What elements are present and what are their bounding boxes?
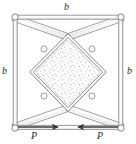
corner-joint-bottom-left xyxy=(12,125,18,131)
dimension-label-left: b xyxy=(2,66,7,76)
core-rhombus xyxy=(30,34,107,112)
force-label-right: P xyxy=(97,131,103,141)
figure-root: b b b P P xyxy=(0,0,136,144)
corner-joint-bottom-right xyxy=(118,125,124,131)
dimension-label-top: b xyxy=(64,2,69,12)
force-label-left: P xyxy=(31,131,37,141)
brace-pin-bottom-right xyxy=(89,93,95,99)
frame-member-right xyxy=(119,17,123,128)
frame-member-left xyxy=(13,17,17,128)
frame-member-top xyxy=(15,15,121,19)
brace-pin-top-right xyxy=(89,46,95,52)
brace-pin-bottom-left xyxy=(41,93,47,99)
corner-joint-top-right xyxy=(118,14,124,20)
dimension-label-right: b xyxy=(127,66,132,76)
brace-pin-top-left xyxy=(41,46,47,52)
frame-diagram-svg xyxy=(0,0,136,144)
corner-joint-top-left xyxy=(12,14,18,20)
